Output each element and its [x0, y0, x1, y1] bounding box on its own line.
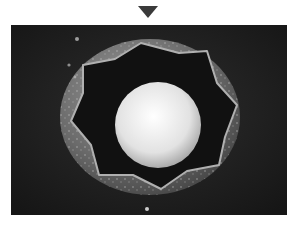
- triangle-down-icon: [138, 6, 158, 18]
- photo-caption-cutoff: [11, 219, 287, 230]
- white-sphere: [115, 82, 201, 168]
- photo: [11, 25, 287, 215]
- bowl-photo-illustration: [11, 25, 287, 215]
